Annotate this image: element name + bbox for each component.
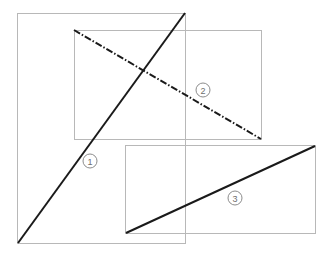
rectangles-group [18, 14, 316, 244]
label-marker-1: 1 [83, 154, 97, 168]
label-2-text: 2 [200, 86, 205, 96]
diagonal-line-1 [18, 13, 185, 243]
labels-group: 1 2 3 [83, 83, 242, 205]
geometry-figure-svg: 1 2 3 [0, 0, 333, 256]
figure-canvas: 1 2 3 [0, 0, 333, 256]
lines-group [18, 13, 315, 243]
diagonal-line-2 [74, 30, 261, 139]
label-3-text: 3 [232, 194, 237, 204]
label-marker-2: 2 [196, 83, 210, 97]
diagonal-line-3 [126, 146, 315, 233]
label-marker-3: 3 [228, 191, 242, 205]
label-1-text: 1 [87, 157, 92, 167]
